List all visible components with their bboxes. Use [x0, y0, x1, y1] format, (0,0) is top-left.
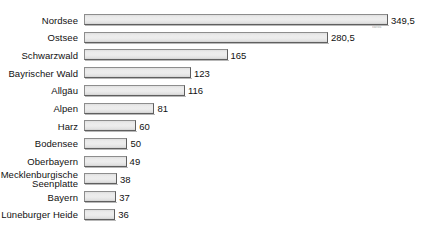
bar-row: Oberbayern49	[0, 153, 429, 171]
bar-and-value: 165	[84, 49, 288, 61]
value-label: 81	[154, 103, 168, 115]
category-label: Mecklenburgische Seenplatte	[0, 170, 78, 188]
bar-and-value: 116	[84, 85, 245, 97]
bar-row: Bodensee50	[0, 135, 429, 153]
value-label: 123	[191, 67, 210, 79]
category-label: Ostsee	[0, 29, 78, 47]
bar	[84, 156, 127, 167]
bar	[84, 103, 154, 114]
bar-and-value: 280,5	[84, 32, 388, 44]
bar-and-value: 81	[84, 103, 214, 115]
bar-row: Nordsee349,5	[0, 11, 429, 29]
value-label: 116	[185, 85, 203, 97]
bar-shadow	[85, 78, 192, 79]
value-label: 280,5	[328, 32, 355, 44]
category-label: Bodensee	[0, 135, 78, 153]
bar-and-value: 50	[84, 138, 187, 150]
bar-row: Ostsee280,5	[0, 29, 429, 47]
watermark-text: statista	[372, 25, 381, 29]
bar	[84, 173, 117, 184]
bar-shadow	[85, 114, 155, 115]
bar-and-value: 38	[84, 173, 177, 185]
value-label: 49	[127, 156, 141, 168]
bar	[84, 191, 116, 202]
bar-and-value: 37	[84, 191, 176, 203]
bar-row: Bayern37	[0, 188, 429, 206]
bar-row: Bayrischer Wald123	[0, 64, 429, 82]
category-label: Alpen	[0, 100, 78, 118]
category-label: Nordsee	[0, 11, 78, 29]
value-label: 60	[136, 120, 150, 132]
bar	[84, 14, 388, 25]
bar-row: Alpen81	[0, 100, 429, 118]
bar-and-value: 36	[84, 209, 175, 221]
bar-and-value: 123	[84, 67, 251, 79]
bar-shadow	[85, 131, 137, 132]
bar-row: Harz60	[0, 117, 429, 135]
bar-shadow	[85, 184, 118, 185]
category-label: Bayern	[0, 188, 78, 206]
bar	[84, 67, 191, 78]
bar-shadow	[85, 220, 116, 221]
value-label: 165	[228, 49, 247, 61]
bar	[84, 120, 136, 131]
value-label: 37	[116, 191, 130, 203]
bar-shadow	[85, 149, 128, 150]
bar-and-value: 60	[84, 120, 196, 132]
bar	[84, 49, 228, 60]
bar-shadow	[85, 167, 128, 168]
bar-row: Allgäu116	[0, 82, 429, 100]
bar	[84, 85, 185, 96]
category-label: Harz	[0, 117, 78, 135]
bar-shadow	[85, 202, 117, 203]
value-label: 349,5	[388, 14, 415, 26]
bar-shadow	[85, 25, 389, 26]
bar-row: Mecklenburgische Seenplatte38	[0, 170, 429, 188]
bar-shadow	[85, 96, 186, 97]
bar	[84, 138, 127, 149]
bar	[84, 209, 115, 220]
bar-row: Lüneburger Heide36	[0, 206, 429, 224]
category-label: Lüneburger Heide	[0, 206, 78, 224]
bar	[84, 32, 328, 43]
bar-chart: Nordsee349,5Ostsee280,5Schwarzwald165Bay…	[0, 0, 429, 234]
value-label: 38	[117, 173, 131, 185]
bar-shadow	[85, 43, 329, 44]
category-label: Oberbayern	[0, 153, 78, 171]
bar-row: Schwarzwald165	[0, 46, 429, 64]
category-label: Schwarzwald	[0, 46, 78, 64]
bar-and-value: 49	[84, 156, 187, 168]
value-label: 36	[115, 209, 129, 221]
category-label: Allgäu	[0, 82, 78, 100]
category-label: Bayrischer Wald	[0, 64, 78, 82]
bar-shadow	[85, 60, 229, 61]
value-label: 50	[127, 138, 141, 150]
